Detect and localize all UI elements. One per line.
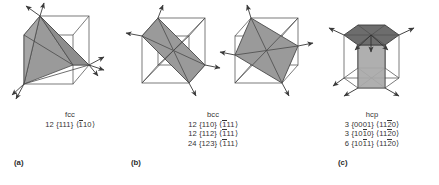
hcp0-count: 3 [345, 120, 349, 129]
hcp2-dir-pre: 11 [379, 139, 387, 148]
hcp2-count: 6 [345, 139, 349, 148]
caption-hcp-row-2: 6 {1011} ⟨1120⟩ [310, 139, 434, 148]
hcp1-count: 3 [345, 129, 349, 138]
caption-fcc-title: fcc [18, 110, 122, 119]
bcc0-plane: 110 [202, 120, 214, 129]
bcc2-plane: 123 [202, 139, 215, 148]
panel-label-c: (c) [338, 158, 348, 167]
caption-bcc-row-2: 24 {123} ⟨111⟩ [158, 139, 268, 148]
bcc2-dir-rest: 11 [227, 139, 235, 148]
panel-b-bcc-diagram-1 [126, 5, 220, 96]
bcc0-dir-rest: 11 [227, 120, 235, 129]
bcc0-plane-close: } [214, 120, 217, 129]
caption-bcc-title: bcc [158, 110, 268, 119]
caption-bcc-row-1: 12 {112} ⟨111⟩ [158, 129, 268, 138]
caption-hcp-title: hcp [310, 110, 434, 119]
bcc0-dir-close: ⟩ [235, 120, 238, 129]
bcc1-dir-close: ⟩ [235, 129, 238, 138]
hcp1-dir-pre: 11 [379, 129, 387, 138]
fcc-dir-close: ⟩ [92, 120, 95, 129]
fcc-plane: 111 [59, 120, 71, 129]
hcp0-plane-close: } [371, 120, 374, 129]
hcp-prismatic-plane [358, 45, 385, 88]
caption-hcp-row-0: 3 {0001} ⟨1120⟩ [310, 120, 434, 129]
panel-c-hcp-diagram [329, 25, 414, 96]
fcc-plane-close: } [71, 120, 74, 129]
panel-b-bcc-diagram-2 [220, 5, 313, 96]
caption-fcc-row-0: 12 {111} ⟨110⟩ [18, 120, 122, 129]
hcp2-dir-close: ⟩ [396, 139, 399, 148]
hcp0-dir-pre: 11 [379, 120, 387, 129]
bcc0-count: 12 [188, 120, 197, 129]
hcp0-plane-pre: 0001 [354, 120, 371, 129]
hcp0-dir-close: ⟩ [396, 120, 399, 129]
fcc-count: 12 [45, 120, 54, 129]
panel-label-a: (a) [14, 158, 24, 167]
slip-systems-figure [0, 0, 439, 185]
panel-a-fcc-diagram [12, 3, 104, 99]
caption-hcp: hcp 3 {0001} ⟨1120⟩ 3 {1010} ⟨1120⟩ 6 {1… [310, 110, 434, 148]
bcc2-plane-close: } [215, 139, 218, 148]
caption-bcc-row-0: 12 {110} ⟨111⟩ [158, 120, 268, 129]
caption-bcc: bcc 12 {110} ⟨111⟩ 12 {112} ⟨111⟩ 24 {12… [158, 110, 268, 148]
bcc2-dir-close: ⟩ [235, 139, 238, 148]
hcp1-dir-close: ⟩ [396, 129, 399, 138]
panel-label-b: (b) [131, 158, 141, 167]
caption-fcc: fcc 12 {111} ⟨110⟩ [18, 110, 122, 129]
hcp2-plane-pre: 10 [354, 139, 363, 148]
hcp1-plane-pre: 10 [354, 129, 363, 138]
bcc1-plane-close: } [214, 129, 217, 138]
fcc-dir-rest: 10 [83, 120, 92, 129]
bcc1-dir-rest: 11 [227, 129, 235, 138]
bcc1-count: 12 [188, 129, 197, 138]
hcp1-plane-close: } [371, 129, 374, 138]
bcc2-count: 24 [188, 139, 197, 148]
hcp2-plane-close: } [371, 139, 374, 148]
caption-hcp-row-1: 3 {1010} ⟨1120⟩ [310, 129, 434, 138]
bcc1-plane: 112 [202, 129, 214, 138]
